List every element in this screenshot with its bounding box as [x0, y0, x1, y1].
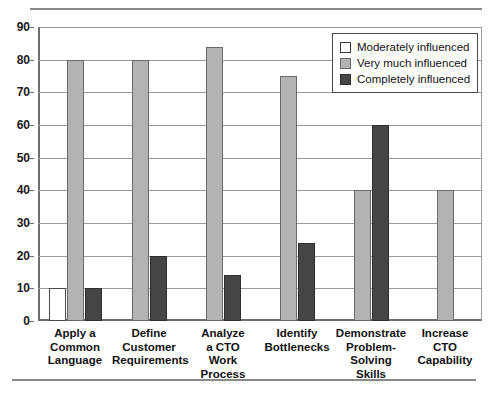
y-tick-label-60: 60 — [0, 119, 30, 131]
x-category-label-3: Analyzea CTOWorkProcess — [186, 327, 260, 381]
y-tick-label-10: 10 — [0, 282, 30, 294]
bar-group-4-series-2 — [280, 76, 297, 321]
y-tick-mark-50 — [29, 158, 34, 159]
x-category-label-5: DemonstrateProblem-SolvingSkills — [334, 327, 408, 381]
legend-label-moderately-influenced: Moderately influenced — [357, 41, 470, 54]
y-tick-label-0: 0 — [0, 315, 30, 327]
legend-item-moderately-influenced: Moderately influenced — [340, 39, 471, 55]
legend-label-very-much-influenced: Very much influenced — [357, 57, 467, 70]
legend-swatch-very-much-influenced — [340, 58, 351, 69]
bar-group-4-series-3 — [298, 243, 315, 321]
x-category-label-4: IdentifyBottlenecks — [260, 327, 334, 354]
x-axis-category-labels: Apply aCommonLanguageDefineCustomerRequi… — [38, 327, 482, 379]
legend-swatch-moderately-influenced — [340, 42, 351, 53]
bar-group-6-series-2 — [437, 190, 454, 321]
y-tick-mark-20 — [29, 256, 34, 257]
y-tick-mark-80 — [29, 60, 34, 61]
bar-group-3-series-2 — [206, 47, 223, 321]
x-category-label-6: IncreaseCTOCapability — [408, 327, 482, 368]
bar-group-2-series-3 — [150, 256, 167, 321]
y-tick-label-40: 40 — [0, 184, 30, 196]
bar-group-2-series-2 — [132, 60, 149, 321]
top-divider-rule — [30, 8, 482, 10]
x-category-label-2: DefineCustomerRequirements — [112, 327, 186, 368]
bar-group-1-series-3 — [85, 288, 102, 321]
bar-group-5-series-3 — [372, 125, 389, 321]
y-tick-label-50: 50 — [0, 152, 30, 164]
y-tick-mark-90 — [29, 27, 34, 28]
y-tick-mark-60 — [29, 125, 34, 126]
y-axis-labels: 9080706050403020100 — [0, 27, 34, 321]
bar-group-1-series-2 — [67, 60, 84, 321]
y-tick-mark-0 — [29, 321, 34, 322]
y-tick-label-20: 20 — [0, 250, 30, 262]
y-tick-mark-30 — [29, 223, 34, 224]
y-tick-label-70: 70 — [0, 86, 30, 98]
legend-swatch-completely-influenced — [340, 74, 351, 85]
y-tick-mark-40 — [29, 190, 34, 191]
chart-legend: Moderately influenced Very much influenc… — [332, 33, 478, 93]
legend-label-completely-influenced: Completely influenced — [357, 73, 470, 86]
legend-item-completely-influenced: Completely influenced — [340, 71, 471, 87]
bottom-divider-rule — [12, 379, 476, 381]
y-tick-label-80: 80 — [0, 54, 30, 66]
y-tick-label-30: 30 — [0, 217, 30, 229]
bar-group-5-series-2 — [354, 190, 371, 321]
legend-item-very-much-influenced: Very much influenced — [340, 55, 471, 71]
x-category-label-1: Apply aCommonLanguage — [38, 327, 112, 368]
y-tick-mark-70 — [29, 92, 34, 93]
chart-page: 9080706050403020100 Moderately influence… — [0, 0, 488, 394]
bar-group-1-series-1 — [49, 288, 66, 321]
y-tick-mark-10 — [29, 288, 34, 289]
cropped-title-text — [31, 0, 231, 7]
y-tick-label-90: 90 — [0, 21, 30, 33]
bar-group-3-series-3 — [224, 275, 241, 321]
